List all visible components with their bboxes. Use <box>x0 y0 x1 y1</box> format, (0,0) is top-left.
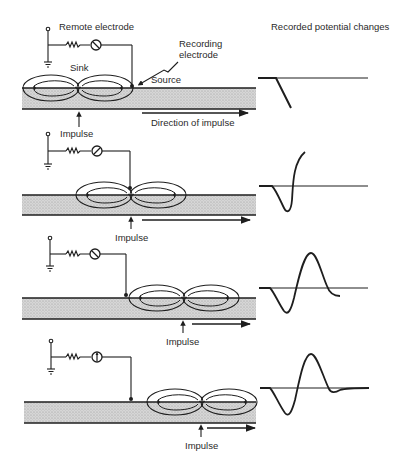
recorded-potential-changes-label: Recorded potential changes <box>271 21 389 32</box>
galvanometer-icon <box>92 146 102 156</box>
recording-electrode-tip <box>129 397 133 401</box>
nerve-fiber <box>24 402 256 423</box>
remote-electrode-terminal-icon <box>49 339 53 343</box>
extracellular-recording-diagram: Remote electrode Recording electrode Sin… <box>0 0 396 474</box>
potential-trace-2 <box>259 152 368 211</box>
impulse-label-panel-4: Impulse <box>185 440 218 451</box>
nerve-fiber <box>22 88 256 109</box>
impulse-label-panel-2: Impulse <box>115 232 148 243</box>
ground-icon <box>47 369 55 374</box>
source-label: Source <box>151 74 181 85</box>
recording-electrode-label-line2: electrode <box>179 49 218 60</box>
potential-trace-1 <box>258 78 368 108</box>
galvanometer-icon <box>90 249 100 259</box>
potential-trace-3 <box>259 253 368 313</box>
remote-electrode-terminal-icon <box>48 236 52 240</box>
resistor-icon <box>66 251 90 256</box>
remote-electrode-label: Remote electrode <box>59 21 134 32</box>
impulse-label-panel-3: Impulse <box>166 336 199 347</box>
recording-electrode-label-line1: Recording <box>179 38 222 49</box>
panel-4 <box>24 339 369 437</box>
remote-electrode-terminal-icon <box>46 27 50 31</box>
impulse-label-panel-1: Impulse <box>60 128 93 139</box>
panel-3 <box>22 236 368 333</box>
potential-trace-4 <box>260 354 369 415</box>
ground-icon <box>44 62 52 67</box>
ground-icon <box>46 266 54 271</box>
resistor-icon <box>66 148 91 153</box>
direction-of-impulse-label: Direction of impulse <box>151 117 234 128</box>
panel-2 <box>22 132 368 229</box>
recording-circuit <box>46 236 128 297</box>
galvanometer-icon <box>92 352 102 362</box>
recording-electrode-tip <box>124 293 128 297</box>
recording-circuit <box>44 132 132 190</box>
ground-icon <box>44 164 52 169</box>
remote-electrode-terminal-icon <box>46 132 50 136</box>
resistor-icon <box>66 42 90 47</box>
diagram-canvas <box>0 0 396 474</box>
resistor-icon <box>66 354 91 359</box>
recording-circuit <box>47 339 133 401</box>
sink-label: Sink <box>70 62 88 73</box>
recording-circuit <box>44 27 134 88</box>
galvanometer-icon <box>91 40 101 50</box>
